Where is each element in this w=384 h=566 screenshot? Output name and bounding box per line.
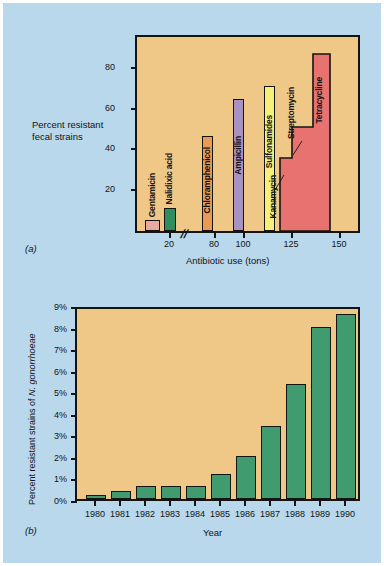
- panel-b-xtick-mark-1988: [294, 501, 296, 506]
- panel-a-x-axis-title: Antibiotic use (tons): [186, 255, 269, 266]
- panel-a-plot-area: Gentamicin Nalidixic acid Chloramphenico…: [135, 35, 360, 233]
- bar-1987: [261, 426, 281, 499]
- panel-b-xtick-label-1990: 1990: [331, 509, 359, 519]
- panel-b-ytick-label-6: 6%: [41, 367, 67, 377]
- panel-b-ytick-label-9: 9%: [41, 302, 67, 312]
- bar-1980: [86, 495, 106, 499]
- panel-b-xtick-mark-1983: [169, 501, 171, 506]
- panel-a-y-axis-title-line1: Percent resistant: [32, 119, 132, 131]
- panel-b-y-axis-title: Percent resistant strains of N. gonorrho…: [27, 305, 37, 505]
- panel-b-ytick-label-4: 4%: [41, 410, 67, 420]
- panel-a-xtick-label-125: 125: [275, 239, 307, 249]
- bar-1986: [236, 456, 256, 499]
- panel-a-xtick-label-20: 20: [155, 239, 183, 249]
- panel-b-y-axis-title-species: N. gonorrhoeae: [27, 333, 37, 396]
- panel-b-xtick-label-1986: 1986: [231, 509, 259, 519]
- panel-b-ytick-label-0: 0%: [41, 496, 67, 506]
- panel-b-xtick-mark-1980: [94, 501, 96, 506]
- panel-a-xtick-mark-20: [169, 233, 171, 238]
- panel-b-plot-area: [75, 307, 360, 501]
- bar-1989: [311, 327, 331, 499]
- panel-b-xtick-label-1980: 1980: [81, 509, 109, 519]
- panel-b-x-axis-title: Year: [203, 527, 222, 538]
- panel-b-ytick-label-8: 8%: [41, 324, 67, 334]
- panel-a-y-axis-title: Percent resistant fecal strains: [32, 119, 132, 143]
- bar-1984: [186, 486, 206, 499]
- panel-b-xtick-mark-1984: [194, 501, 196, 506]
- bar-1990: [336, 314, 356, 499]
- panel-b-xtick-label-1982: 1982: [131, 509, 159, 519]
- panel-a-ytick-label-40: 40: [93, 143, 115, 153]
- panel-a-xtick-mark-150: [339, 233, 341, 238]
- bar-1982: [136, 486, 156, 499]
- panel-b-xtick-label-1988: 1988: [281, 509, 309, 519]
- panel-b-xtick-label-1985: 1985: [206, 509, 234, 519]
- panel-b-ytick-mark-0: [71, 501, 77, 503]
- panel-b-y-axis-title-prefix: Percent resistant strains of: [27, 396, 37, 505]
- panel-b-xtick-label-1989: 1989: [306, 509, 334, 519]
- panel-a-xtick-label-80: 80: [200, 239, 228, 249]
- panel-a-ytick-label-80: 80: [93, 62, 115, 72]
- panel-b-xtick-mark-1981: [119, 501, 121, 506]
- panel-a-ytick-label-20: 20: [93, 184, 115, 194]
- panel-b-xtick-mark-1989: [319, 501, 321, 506]
- panel-b-xtick-mark-1982: [144, 501, 146, 506]
- panel-a: Percent resistant fecal strains 80 60 40…: [3, 3, 381, 271]
- panel-b-xtick-mark-1986: [244, 501, 246, 506]
- panel-b-label: (b): [25, 525, 37, 536]
- bar-1985: [211, 474, 231, 499]
- panel-a-xtick-label-150: 150: [323, 239, 355, 249]
- panel-a-xtick-mark-125: [291, 233, 293, 238]
- bar-1988: [286, 384, 306, 499]
- bar-1983: [161, 486, 181, 499]
- panel-b-xtick-mark-1985: [219, 501, 221, 506]
- panel-a-label: (a): [25, 243, 37, 254]
- panel-b-xtick-label-1983: 1983: [156, 509, 184, 519]
- panel-a-y-axis-title-line2: fecal strains: [32, 131, 132, 143]
- panel-b-ytick-label-2: 2%: [41, 453, 67, 463]
- panel-b-xtick-mark-1987: [269, 501, 271, 506]
- panel-a-xtick-label-100: 100: [227, 239, 259, 249]
- panel-a-xtick-mark-100: [243, 233, 245, 238]
- panel-b-ytick-label-3: 3%: [41, 431, 67, 441]
- panel-a-xtick-mark-80: [214, 233, 216, 238]
- panel-a-ytick-label-60: 60: [93, 103, 115, 113]
- panel-b-xtick-label-1984: 1984: [181, 509, 209, 519]
- panel-b-xtick-label-1981: 1981: [106, 509, 134, 519]
- label-leader-lines: [137, 37, 358, 231]
- panel-b-ytick-label-7: 7%: [41, 345, 67, 355]
- panel-b-xtick-label-1987: 1987: [256, 509, 284, 519]
- panel-b-ytick-label-1: 1%: [41, 474, 67, 484]
- bar-1981: [111, 491, 131, 499]
- panel-b-xtick-mark-1990: [344, 501, 346, 506]
- panel-b-ytick-label-5: 5%: [41, 388, 67, 398]
- panel-b: Percent resistant strains of N. gonorrho…: [3, 271, 381, 563]
- figure-canvas: Percent resistant fecal strains 80 60 40…: [3, 3, 381, 563]
